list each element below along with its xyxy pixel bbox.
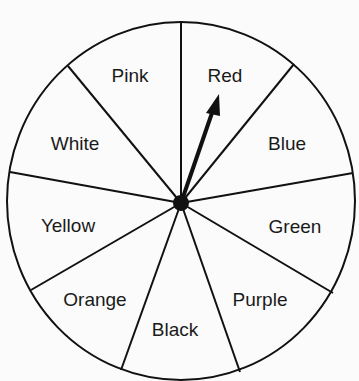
spinner-diagram: Pink Red Blue Green Purple Black Orange … — [0, 0, 359, 381]
spinner-arrow-icon[interactable] — [181, 94, 220, 203]
section-label-blue: Blue — [268, 133, 306, 154]
section-label-purple: Purple — [233, 289, 288, 310]
section-label-red: Red — [208, 65, 243, 86]
section-label-orange: Orange — [63, 289, 126, 310]
spinner-hub — [173, 195, 189, 211]
section-label-green: Green — [269, 216, 322, 237]
section-label-yellow: Yellow — [41, 215, 96, 236]
section-label-pink: Pink — [112, 65, 149, 86]
section-label-black: Black — [152, 319, 199, 340]
section-label-white: White — [51, 133, 100, 154]
